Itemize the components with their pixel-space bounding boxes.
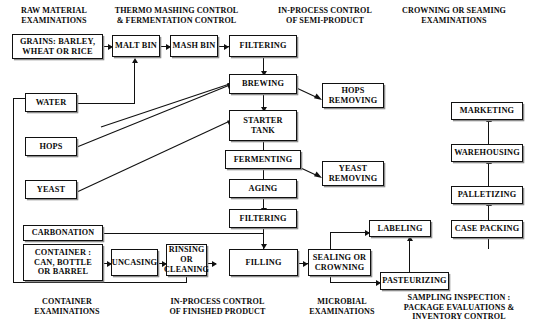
edge-sealing-to-pasteurizing-h — [330, 282, 380, 283]
node-starter-tank[interactable]: STARTER TANK — [229, 110, 297, 141]
node-container[interactable]: CONTAINER : CAN, BOTTLE OR BARREL — [23, 244, 103, 281]
node-fermenting[interactable]: FERMENTING — [225, 150, 301, 169]
arrowhead-malt-bin-in-bottom — [132, 58, 138, 63]
node-malt-bin[interactable]: MALT BIN — [112, 35, 160, 57]
node-warehousing[interactable]: WAREHOUSING — [451, 144, 523, 162]
node-sealing-or-crowning[interactable]: SEALING OR CROWNING — [308, 249, 371, 276]
edge-water-to-rinsing-v1 — [13, 98, 14, 283]
footer-sampling-inspection: SAMPLING INSPECTION : PACKAGE EVALUATION… — [389, 293, 529, 322]
arrowhead-filling-in-left — [212, 261, 217, 267]
node-brewing[interactable]: BREWING — [229, 74, 297, 94]
header-crowning-seaming: CROWNING OR SEAMING EXAMINATIONS — [380, 6, 528, 25]
node-grains[interactable]: GRAINS: BARLEY, WHEAT OR RICE — [12, 34, 103, 59]
flowchart-canvas: RAW MATERIAL EXAMINATIONS THERMO MASHING… — [0, 0, 533, 329]
node-yeast-removing[interactable]: YEAST REMOVING — [322, 161, 384, 186]
node-labeling[interactable]: LABELING — [369, 220, 431, 237]
node-aging[interactable]: AGING — [229, 179, 297, 198]
edge-water-to-rinsing-h — [13, 282, 187, 283]
node-rinsing-or-cleaning[interactable]: RINSING OR CLEANING — [166, 244, 207, 276]
header-raw-material: RAW MATERIAL EXAMINATIONS — [6, 6, 102, 25]
node-water[interactable]: WATER — [25, 93, 77, 112]
node-palletizing[interactable]: PALLETIZING — [451, 186, 523, 204]
node-hops-removing[interactable]: HOPS REMOVING — [322, 83, 384, 108]
node-filling[interactable]: FILLING — [229, 249, 298, 276]
node-carbonation[interactable]: CARBONATION — [23, 225, 103, 241]
node-yeast[interactable]: YEAST — [25, 180, 77, 199]
node-mash-bin[interactable]: MASH BIN — [170, 35, 218, 57]
node-pasteurizing[interactable]: PASTEURIZING — [380, 272, 449, 290]
edge-carbonation-to-filling — [103, 233, 264, 234]
node-filtering-1[interactable]: FILTERING — [229, 35, 297, 57]
node-hops[interactable]: HOPS — [25, 137, 77, 156]
edge-water-left-stub — [13, 98, 25, 99]
node-marketing[interactable]: MARKETING — [451, 102, 523, 120]
footer-microbial-examinations: MICROBIAL EXAMINATIONS — [297, 297, 387, 316]
node-uncasing[interactable]: UNCASING — [111, 249, 158, 276]
edge-yeast-to-starter-tank — [77, 118, 236, 192]
header-in-process-semi-product: IN-PROCESS CONTROL OF SEMI-PRODUCT — [264, 6, 386, 25]
edge-palletizing-to-warehousing — [488, 163, 489, 186]
node-case-packing[interactable]: CASE PACKING — [451, 220, 523, 238]
edge-pasteurizing-to-labeling — [409, 240, 410, 272]
footer-container-examinations: CONTAINER EXAMINATIONS — [14, 297, 120, 316]
edge-warehousing-to-marketing — [488, 121, 489, 144]
header-thermo-mashing: THERMO MASHING CONTROL & FERMENTATION CO… — [103, 6, 250, 25]
node-filtering-2[interactable]: FILTERING — [229, 209, 297, 228]
edge-sealing-to-labeling-h — [330, 232, 369, 233]
footer-in-process-finished-product: IN-PROCESS CONTROL OF FINISHED PRODUCT — [155, 297, 280, 316]
